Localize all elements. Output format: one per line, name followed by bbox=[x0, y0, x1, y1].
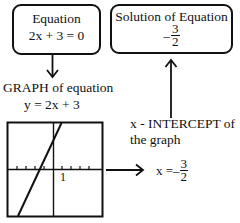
arrow-up-icon bbox=[166, 60, 177, 118]
arrow-right-icon bbox=[106, 165, 143, 176]
diagram-drawing bbox=[0, 0, 240, 223]
arrow-down-icon bbox=[47, 55, 58, 77]
